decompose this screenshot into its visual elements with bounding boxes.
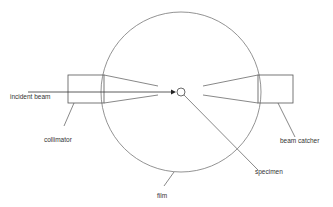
beam-catcher-leader bbox=[278, 103, 295, 137]
collimator-cone-top bbox=[104, 75, 158, 86]
arrow-head-icon bbox=[171, 90, 176, 95]
collimator-leader bbox=[64, 103, 74, 126]
catcher-cone-top bbox=[203, 75, 258, 86]
incident-beam-label: incident beam bbox=[10, 93, 50, 100]
specimen-leader bbox=[184, 95, 258, 170]
collimator-box bbox=[68, 75, 104, 103]
catcher-cone-bottom bbox=[203, 95, 258, 103]
collimator-label: collimator bbox=[44, 136, 72, 143]
specimen-circle bbox=[177, 88, 185, 96]
specimen-label: specimen bbox=[255, 168, 283, 175]
collimator-cone-bottom bbox=[104, 95, 158, 103]
film-label: film bbox=[157, 192, 167, 199]
beam-catcher-box bbox=[258, 75, 293, 103]
beam-catcher-label: beam catcher bbox=[280, 137, 319, 144]
diagram-canvas bbox=[0, 0, 333, 207]
film-leader bbox=[164, 172, 174, 186]
